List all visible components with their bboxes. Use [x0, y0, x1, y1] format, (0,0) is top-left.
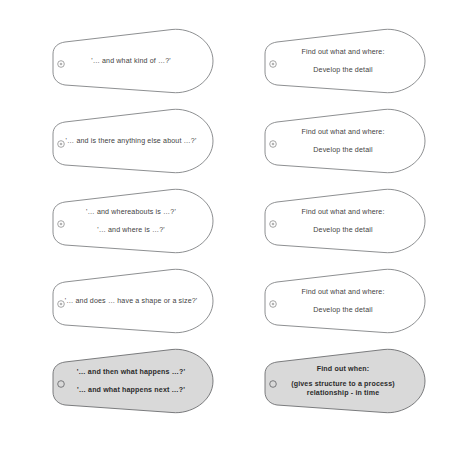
hub-anchor-dot-icon [60, 143, 63, 146]
wedge-shape [22, 186, 218, 256]
wedge-left-1[interactable]: '… and what kind of …?' [22, 26, 218, 96]
wedge-left-3[interactable]: '… and whereabouts is …?' '… and where i… [22, 186, 218, 256]
wedge-right-3[interactable]: Find out what and where: Develop the det… [234, 186, 430, 256]
wedge-shape [234, 26, 430, 96]
wedge-left-4[interactable]: '… and does … have a shape or a size?' [22, 266, 218, 336]
hub-anchor-dot-icon [272, 63, 275, 66]
hub-anchor-dot-icon [60, 383, 63, 386]
diagram-canvas: '… and what kind of …?' '… and is there … [0, 0, 449, 449]
wedge-shape [22, 266, 218, 336]
hub-anchor-dot-icon [272, 223, 275, 226]
hub-anchor-dot-icon [60, 223, 63, 226]
wedge-shape [234, 186, 430, 256]
wedge-shape [234, 106, 430, 176]
wedge-left-5[interactable]: '… and then what happens …?' '… and what… [22, 346, 218, 416]
wedge-right-2[interactable]: Find out what and where: Develop the det… [234, 106, 430, 176]
wedge-shape [22, 346, 218, 416]
hub-anchor-dot-icon [272, 303, 275, 306]
wedge-left-2[interactable]: '… and is there anything else about …?' [22, 106, 218, 176]
wedge-shape [234, 346, 430, 416]
hub-anchor-dot-icon [60, 63, 63, 66]
wedge-right-4[interactable]: Find out what and where: Develop the det… [234, 266, 430, 336]
wedge-right-5[interactable]: Find out when: (gives structure to a pro… [234, 346, 430, 416]
wedge-shape [22, 26, 218, 96]
hub-anchor-dot-icon [272, 383, 275, 386]
wedge-shape [234, 266, 430, 336]
hub-anchor-dot-icon [60, 303, 63, 306]
wedge-shape [22, 106, 218, 176]
hub-anchor-dot-icon [272, 143, 275, 146]
wedge-right-1[interactable]: Find out what and where: Develop the det… [234, 26, 430, 96]
